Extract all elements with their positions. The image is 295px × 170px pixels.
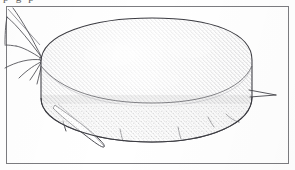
leg-4 [5, 59, 42, 68]
mite-illustration [0, 0, 295, 170]
corner-diagonal-line [8, 9, 40, 45]
leg-segment-a [5, 45, 16, 46]
lateral-spine-right [249, 90, 276, 97]
anterior-legs-group [5, 8, 43, 84]
leg-segment-b [5, 17, 7, 44]
leg-2 [7, 17, 42, 58]
figure-plate-page: p g p [0, 0, 295, 170]
